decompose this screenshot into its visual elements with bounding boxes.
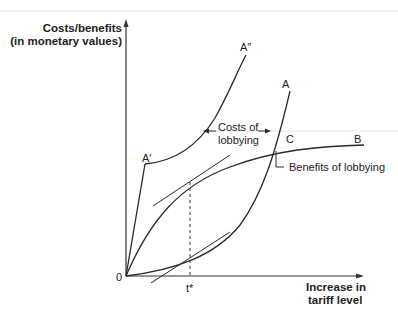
label-a: A xyxy=(282,78,290,90)
costs-tangent xyxy=(151,232,230,283)
label-b: B xyxy=(354,133,361,145)
t-star-label: t* xyxy=(186,282,194,294)
y-axis-label-line1: Costs/benefits xyxy=(43,22,122,34)
lobbying-diagram: Costs/benefits (in monetary values) Incr… xyxy=(0,0,398,312)
shifted-costs-curve xyxy=(145,55,246,164)
x-axis-arrow-icon xyxy=(356,274,364,279)
benefits-tangent xyxy=(153,155,230,206)
label-a-double-prime: A″ xyxy=(240,41,251,53)
x-axis-label-line1: Increase in xyxy=(306,281,366,293)
label-c: C xyxy=(286,133,294,145)
y-axis-arrow-icon xyxy=(124,19,129,27)
a-prime-jump-line xyxy=(126,164,145,276)
costs-of-lobbying-line1: Costs of xyxy=(218,121,259,133)
y-axis-label-line2: (in monetary values) xyxy=(10,35,122,47)
x-axis-label-line2: tariff level xyxy=(308,294,362,306)
label-a-prime: A′ xyxy=(142,152,151,164)
arrow-right-icon xyxy=(265,129,271,134)
costs-of-lobbying-line2: lobbying xyxy=(218,134,259,146)
benefits-of-lobbying-label: Benefits of lobbying xyxy=(289,161,385,173)
costs-curve xyxy=(126,91,290,276)
origin-label: 0 xyxy=(116,271,122,283)
